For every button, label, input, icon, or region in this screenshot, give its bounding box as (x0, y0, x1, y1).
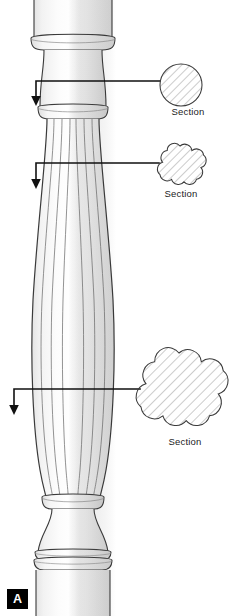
column-shading (34, 0, 116, 616)
section-label-3: Section (150, 436, 220, 447)
section-label-1: Section (159, 106, 217, 117)
baluster-section-diagram (0, 0, 231, 616)
baluster-drawing (31, 0, 116, 616)
section-shape-scallop-small (157, 143, 206, 184)
section-shape-scallop-large (136, 348, 228, 426)
section-shapes (136, 64, 228, 426)
section-label-2: Section (152, 188, 210, 199)
section-shape-circle (160, 64, 202, 106)
plate-badge: A (7, 589, 28, 609)
